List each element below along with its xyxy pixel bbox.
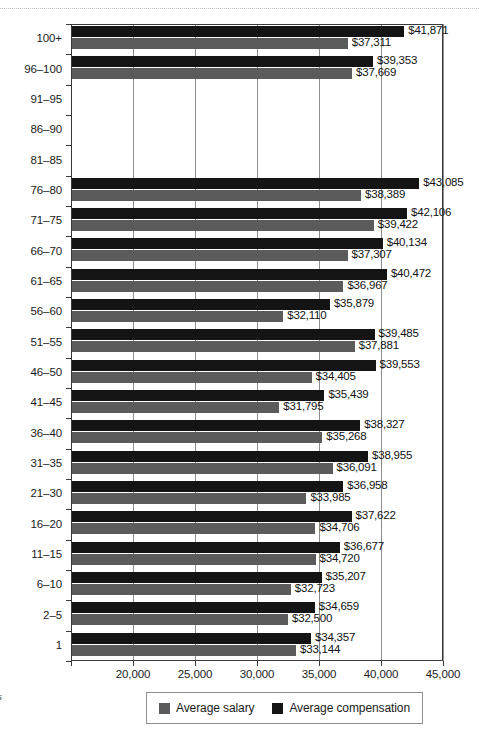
bar-average-salary[interactable] [71,341,355,352]
bar-average-salary[interactable] [71,190,361,201]
bar-value-label-compensation: $35,879 [334,298,374,309]
bar-average-salary[interactable] [71,463,333,474]
bar-row: $35,207$32,723 [71,570,443,600]
bar-value-label-salary: $37,311 [352,37,391,48]
bar-value-label-compensation: $42,106 [411,207,451,218]
bar-average-salary[interactable] [71,614,288,625]
bar-row: $43,085$38,389 [71,176,443,206]
y-axis-label: 91–95 [0,93,62,105]
x-tick [195,661,196,666]
bar-row: $35,879$32,110 [71,297,443,327]
y-axis-label: 56–60 [0,305,62,317]
y-axis-label: 86–90 [0,123,62,135]
bar-average-compensation[interactable] [71,572,322,583]
compensation-swatch-icon [272,703,283,714]
bar-average-salary[interactable] [71,281,343,292]
x-tick-label: 20,000 [116,668,151,680]
chart-figure: rs 100+96–10091–9586–9081–8576–8071–7566… [0,0,479,732]
bar-row: $36,958$33,985 [71,479,443,509]
bar-value-label-salary: $34,706 [319,522,359,533]
bar-value-label-salary: $35,268 [326,431,366,442]
bar-average-compensation[interactable] [71,511,352,522]
bar-average-salary[interactable] [71,68,352,79]
bar-average-salary[interactable] [71,645,296,656]
y-axis-label: 81–85 [0,154,62,166]
bar-value-label-compensation: $34,357 [315,632,355,643]
bar-average-salary[interactable] [71,250,348,261]
bar-row: $40,134$37,307 [71,236,443,266]
x-tick-label: 40,000 [364,668,399,680]
bar-value-label-compensation: $35,207 [326,571,366,582]
y-axis-label: 96–100 [0,63,62,75]
bar-row: $39,553$34,405 [71,358,443,388]
x-tick [257,661,258,666]
bar-average-salary[interactable] [71,584,291,595]
bar-average-salary[interactable] [71,38,348,49]
y-axis-label: 61–65 [0,275,62,287]
bar-average-compensation[interactable] [71,633,311,644]
bar-value-label-salary: $34,720 [320,553,360,564]
bar-row: $38,327$35,268 [71,418,443,448]
bar-value-label-salary: $36,091 [337,462,377,473]
bar-average-salary[interactable] [71,554,316,565]
bar-average-compensation[interactable] [71,542,340,553]
y-axis-label: 6–10 [0,578,62,590]
bar-value-label-salary: $32,723 [295,583,335,594]
bar-average-salary[interactable] [71,402,279,413]
y-axis-labels: 100+96–10091–9586–9081–8576–8071–7566–70… [0,24,66,661]
bar-average-compensation[interactable] [71,269,387,280]
legend-item-average-salary[interactable]: Average salary [159,701,254,715]
bar-value-label-compensation: $41,871 [408,25,448,36]
bar-average-salary[interactable] [71,220,374,231]
bar-value-label-salary: $33,985 [310,492,350,503]
bar-average-salary[interactable] [71,311,283,322]
bar-average-compensation[interactable] [71,238,383,249]
bar-average-compensation[interactable] [71,481,343,492]
x-tick-origin [71,661,72,666]
x-tick-label: 25,000 [178,668,213,680]
bar-value-label-compensation: $36,958 [347,480,387,491]
bar-row: $35,439$31,795 [71,388,443,418]
bar-value-label-compensation: $40,134 [387,237,427,248]
x-tick [133,661,134,666]
x-tick [319,661,320,666]
legend-item-average-compensation[interactable]: Average compensation [272,701,410,715]
bar-row: $38,955$36,091 [71,449,443,479]
bar-average-salary[interactable] [71,493,306,504]
bar-average-salary[interactable] [71,523,315,534]
legend-label-average-salary: Average salary [176,701,254,715]
bar-average-salary[interactable] [71,372,312,383]
bar-average-compensation[interactable] [71,56,373,67]
y-axis-label: 100+ [0,32,62,44]
bar-average-compensation[interactable] [71,602,315,613]
bar-average-salary[interactable] [71,432,322,443]
bar-average-compensation[interactable] [71,329,375,340]
bar-value-label-compensation: $35,439 [328,389,368,400]
bar-value-label-salary: $34,405 [316,371,356,382]
bar-row: $41,871$37,311 [71,24,443,54]
x-tick-label: 35,000 [302,668,337,680]
bar-row: $40,472$36,967 [71,267,443,297]
page-top-dotted-rule [0,8,479,10]
salary-swatch-icon [159,703,170,714]
bar-row: $39,485$37,881 [71,327,443,357]
bar-average-compensation[interactable] [71,451,368,462]
bar-value-label-compensation: $38,955 [372,450,412,461]
bar-value-label-salary: $39,422 [378,219,418,230]
y-axis-label: 76–80 [0,184,62,196]
bar-row [71,115,443,145]
bar-value-label-salary: $31,795 [283,401,323,412]
bar-value-label-compensation: $39,485 [379,328,419,339]
bar-row [71,145,443,175]
bar-value-label-compensation: $38,327 [364,419,404,430]
margin-note: rs [0,691,2,702]
y-axis-label: 71–75 [0,214,62,226]
bar-row: $42,106$39,422 [71,206,443,236]
bar-value-label-salary: $37,307 [352,249,392,260]
bar-value-label-salary: $38,389 [365,189,405,200]
legend-label-average-compensation: Average compensation [289,701,410,715]
bar-average-compensation[interactable] [71,208,407,219]
bar-value-label-compensation: $34,659 [319,601,359,612]
y-axis-label: 16–20 [0,518,62,530]
bar-average-compensation[interactable] [71,420,360,431]
